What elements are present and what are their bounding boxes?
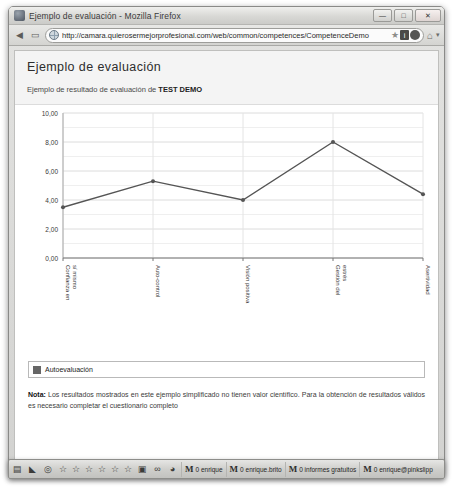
taskbar-task-list: M0 enriqueM0 enrique.britoM0 informes gr…	[181, 462, 436, 477]
clock-icon[interactable]: ◎	[41, 462, 54, 476]
note-label: Nota:	[28, 391, 46, 398]
x-axis-label: Confianza en	[65, 265, 71, 300]
taskbar-task[interactable]: M0 informes gratuitos	[285, 462, 360, 477]
chart-svg: 0,002,004,006,008,0010,00 Confianza ensí…	[15, 105, 439, 357]
taskbar-task[interactable]: M0 enrique.brito	[226, 462, 285, 477]
reader-icon[interactable]	[410, 30, 420, 40]
y-tick-label: 0,00	[45, 255, 58, 262]
taskbar-task-label: 0 enrique@pinkslipp	[374, 466, 433, 473]
rating-stars[interactable]: ☆ ☆ ☆ ☆ ☆ ☆	[56, 462, 134, 476]
y-tick-label: 4,00	[45, 197, 58, 204]
note-text: Los resultados mostrados en este ejemplo…	[28, 391, 425, 409]
link-icon[interactable]: ∞	[151, 462, 164, 476]
page-title: Ejemplo de evaluación	[27, 60, 426, 74]
back-arrow-icon[interactable]: ◀	[13, 29, 26, 42]
chart-x-axis-labels: Confianza ensí mismoAuto-controlVisión p…	[65, 265, 431, 304]
y-tick-label: 8,00	[45, 139, 58, 146]
window-titlebar[interactable]: Ejemplo de evaluación - Mozilla Firefox …	[9, 7, 444, 25]
chart-legend: Autoevaluación	[28, 361, 425, 378]
taskbar-task-label: 0 enrique.brito	[240, 466, 282, 473]
bookmark-star-icon[interactable]: ★	[391, 30, 399, 40]
gmail-icon: M	[289, 465, 298, 474]
desktop: Ejemplo de evaluación - Mozilla Firefox …	[0, 0, 453, 487]
y-tick-label: 10,00	[42, 110, 59, 117]
page-subtitle-strong: TEST DEMO	[158, 85, 202, 94]
chart-data-point[interactable]	[61, 205, 65, 209]
taskbar-task-label: 0 informes gratuitos	[299, 466, 356, 473]
x-axis-label: Gestión del	[335, 265, 341, 295]
gmail-icon: M	[185, 465, 194, 474]
taskbar-task[interactable]: M0 enrique	[181, 462, 226, 477]
x-axis-label: sí mismo	[72, 265, 78, 290]
star-icon[interactable]: ☆	[95, 462, 108, 476]
star-icon[interactable]: ☆	[108, 462, 121, 476]
chart-data-point[interactable]	[151, 179, 155, 183]
url-text: http://camara.quierosermejorprofesional.…	[62, 31, 388, 40]
legend-swatch-icon	[33, 366, 41, 374]
window-title: Ejemplo de evaluación - Mozilla Firefox	[29, 11, 181, 21]
x-axis-label: Auto-control	[155, 265, 161, 297]
firefox-icon	[14, 10, 25, 21]
page-header: Ejemplo de evaluación Ejemplo de resulta…	[15, 51, 438, 105]
taskbar-task[interactable]: M0 enrique@pinkslipp	[359, 462, 436, 477]
page-content: Ejemplo de evaluación Ejemplo de resulta…	[14, 50, 439, 471]
x-axis-label: Asertividad	[425, 265, 431, 295]
minimize-button[interactable]: —	[373, 9, 392, 22]
chart-gridlines	[63, 113, 423, 258]
maximize-button[interactable]: □	[394, 9, 413, 22]
page-info-icon[interactable]: i	[400, 30, 409, 40]
taskbar-task-label: 0 enrique	[196, 466, 223, 473]
chart-data-point[interactable]	[241, 198, 245, 202]
triangle-icon[interactable]: ◣	[26, 462, 39, 476]
browser-navbar: ◀ ▭ http://camara.quierosermejorprofesio…	[9, 25, 444, 46]
home-icon[interactable]: ⌂	[427, 30, 433, 41]
forward-arrow-icon[interactable]: ▭	[29, 29, 42, 42]
url-bar[interactable]: http://camara.quierosermejorprofesional.…	[45, 28, 424, 43]
close-button[interactable]: ✕	[415, 9, 441, 22]
page-subtitle-prefix: Ejemplo de resultado de evaluación de	[27, 85, 158, 94]
window-controls: — □ ✕	[373, 9, 441, 22]
url-bar-icons: ★ i	[391, 30, 420, 40]
gmail-icon: M	[230, 465, 239, 474]
x-axis-label: Visión positiva	[245, 265, 251, 304]
chart-y-axis-labels: 0,002,004,006,008,0010,00	[42, 110, 59, 262]
x-axis-label: estrés	[342, 265, 348, 281]
chart-data-point[interactable]	[331, 140, 335, 144]
mail-badge-icon[interactable]: ▣	[136, 462, 149, 476]
gmail-icon: M	[363, 465, 372, 474]
notes-icon[interactable]: ▤	[11, 462, 24, 476]
disclaimer-note: Nota: Los resultados mostrados en este e…	[28, 390, 425, 411]
page-subtitle: Ejemplo de resultado de evaluación de TE…	[27, 85, 426, 94]
y-tick-label: 2,00	[45, 226, 58, 233]
star-icon[interactable]: ☆	[56, 462, 69, 476]
taskbar: ▤ ◣ ◎ ☆ ☆ ☆ ☆ ☆ ☆ ▣ ∞ ◕ M0 enriqueM0 enr…	[8, 459, 445, 479]
star-icon[interactable]: ☆	[82, 462, 95, 476]
globe-icon	[49, 30, 59, 40]
star-icon[interactable]: ☆	[121, 462, 134, 476]
legend-label: Autoevaluación	[45, 366, 93, 373]
browser-window: Ejemplo de evaluación - Mozilla Firefox …	[8, 6, 445, 476]
competence-line-chart: 0,002,004,006,008,0010,00 Confianza ensí…	[15, 105, 438, 357]
star-icon[interactable]: ☆	[69, 462, 82, 476]
chevron-down-icon[interactable]: ▾	[436, 31, 440, 39]
shield-icon[interactable]: ◕	[166, 462, 179, 476]
y-tick-label: 6,00	[45, 168, 58, 175]
chart-data-point[interactable]	[421, 192, 425, 196]
